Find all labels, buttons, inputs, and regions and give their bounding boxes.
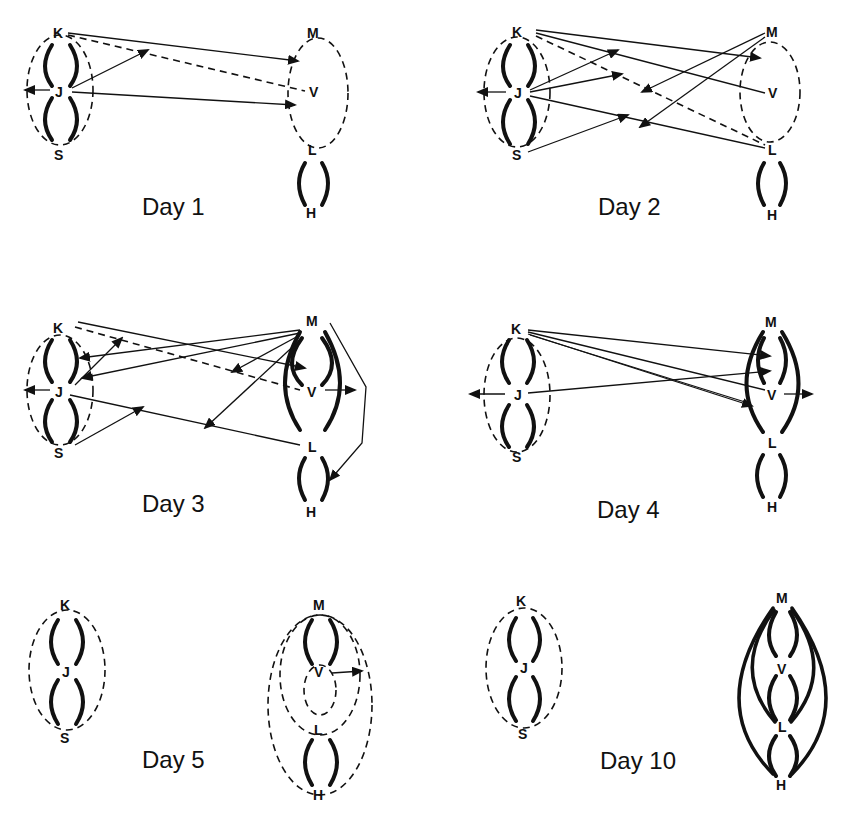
node-s: S — [512, 147, 521, 163]
right-group: M V L H — [740, 24, 800, 223]
social-network-diagram: K J S M V L H Day 1 K J S — [0, 0, 852, 813]
node-h: H — [306, 504, 316, 520]
left-group: K J S — [27, 25, 93, 163]
node-h: H — [776, 777, 786, 793]
node-h: H — [306, 205, 316, 221]
node-j: J — [55, 84, 63, 100]
node-s: S — [54, 147, 63, 163]
node-m: M — [776, 590, 788, 606]
panel-day1: K J S M V L H Day 1 — [25, 25, 348, 221]
node-l: L — [768, 435, 777, 451]
node-l: L — [308, 439, 317, 455]
node-s: S — [54, 445, 63, 461]
node-j: J — [514, 85, 522, 101]
caption-day3: Day 3 — [142, 490, 205, 517]
node-k: K — [53, 25, 63, 41]
node-k: K — [516, 593, 526, 609]
panel-day2: K J S M V L H Day 2 — [478, 24, 800, 223]
panel-day10: K J S M V L H Day 10 — [486, 590, 826, 793]
node-v: V — [767, 387, 777, 403]
left-group: K J S — [486, 593, 562, 742]
node-k: K — [60, 597, 70, 613]
right-group: M V L H — [268, 597, 372, 803]
node-j: J — [55, 384, 63, 400]
node-v: V — [314, 664, 324, 680]
node-k: K — [511, 321, 521, 337]
right-group: M V L H — [739, 590, 826, 793]
node-l: L — [314, 722, 323, 738]
caption-day5: Day 5 — [142, 746, 205, 773]
node-j: J — [520, 660, 528, 676]
caption-day1: Day 1 — [142, 193, 205, 220]
panel-day5: K J S M V L H Day 5 — [29, 597, 372, 803]
panel-day3: K J S M V L H Day 3 — [25, 313, 366, 520]
node-k: K — [53, 320, 63, 336]
node-s: S — [60, 730, 69, 746]
right-group: M V L H — [747, 314, 799, 515]
node-j: J — [62, 664, 70, 680]
node-l: L — [308, 142, 317, 158]
left-group: K J S — [29, 597, 105, 746]
node-j: J — [514, 387, 522, 403]
panel-day4: K J S M V L H Day 4 — [470, 314, 812, 523]
node-h: H — [313, 787, 323, 803]
right-group: M V L H — [285, 313, 340, 520]
node-m: M — [765, 314, 777, 330]
node-s: S — [512, 449, 521, 465]
node-v: V — [777, 661, 787, 677]
node-v: V — [307, 384, 317, 400]
node-h: H — [767, 499, 777, 515]
node-m: M — [766, 24, 778, 40]
node-l: L — [778, 719, 787, 735]
node-v: V — [768, 85, 778, 101]
node-m: M — [307, 25, 319, 41]
caption-day2: Day 2 — [598, 193, 661, 220]
caption-day10: Day 10 — [600, 747, 676, 774]
caption-day4: Day 4 — [597, 496, 660, 523]
right-group: M V L H — [288, 25, 348, 221]
node-m: M — [313, 597, 325, 613]
node-s: S — [518, 726, 527, 742]
node-l: L — [768, 142, 777, 158]
left-group: K J S — [484, 24, 550, 163]
node-k: K — [512, 24, 522, 40]
node-v: V — [309, 84, 319, 100]
node-m: M — [306, 313, 318, 329]
node-h: H — [767, 207, 777, 223]
left-group: K J S — [484, 321, 550, 465]
